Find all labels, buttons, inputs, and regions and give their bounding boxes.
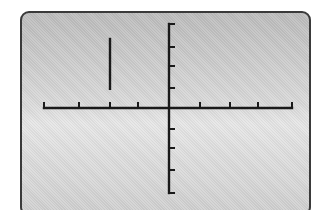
graph-plot (0, 0, 318, 210)
axes (44, 24, 292, 193)
